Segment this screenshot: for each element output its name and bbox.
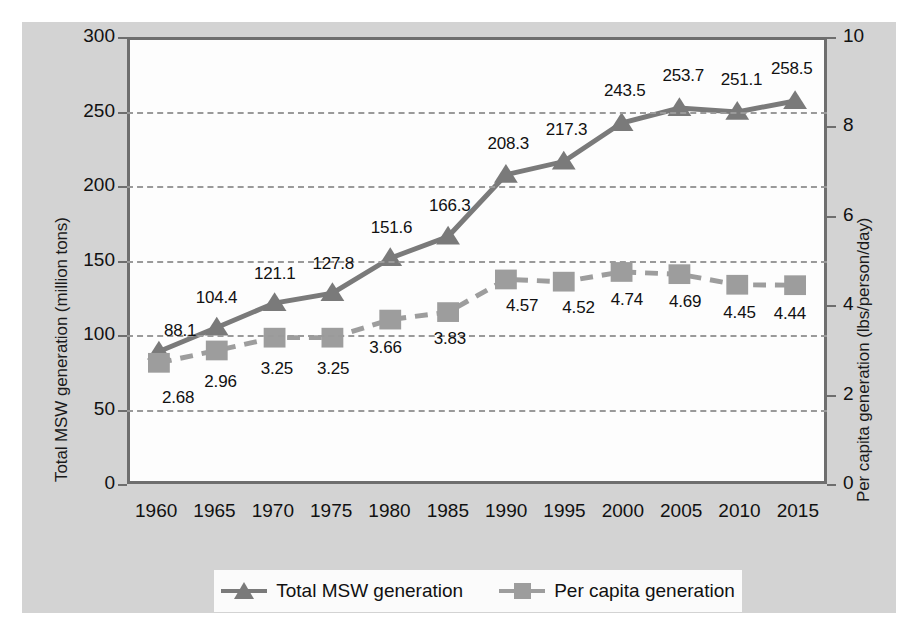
per-capita-value-label: 3.83	[434, 329, 466, 349]
square-marker-icon	[499, 580, 545, 602]
left-tick-label: 200	[55, 174, 115, 196]
data-point-marker	[264, 328, 286, 348]
left-tick-mark	[118, 484, 127, 486]
right-tick-mark	[827, 484, 836, 486]
left-tick-mark	[118, 37, 127, 39]
total-value-label: 258.5	[771, 59, 813, 79]
right-tick-label: 6	[843, 204, 903, 226]
right-tick-label: 10	[843, 25, 903, 47]
total-value-label: 208.3	[487, 134, 529, 154]
total-value-label: 104.4	[196, 288, 238, 308]
legend-entry-per-capita: Per capita generation	[499, 580, 735, 602]
data-point-marker	[495, 270, 517, 290]
data-point-marker	[148, 353, 170, 373]
right-tick-mark	[827, 37, 836, 39]
data-point-marker	[437, 302, 459, 322]
data-point-marker	[784, 275, 806, 295]
total-value-label: 243.5	[604, 81, 646, 101]
right-tick-label: 4	[843, 293, 903, 315]
total-value-label: 127.8	[312, 254, 354, 274]
total-value-label: 151.6	[371, 218, 413, 238]
per-capita-value-label: 4.44	[774, 304, 806, 324]
legend-label-total: Total MSW generation	[276, 580, 463, 602]
per-capita-value-label: 3.25	[261, 359, 293, 379]
data-point-marker	[611, 262, 633, 282]
x-tick-label: 2015	[763, 500, 833, 522]
gridline	[127, 112, 827, 114]
per-capita-value-label: 4.45	[723, 303, 755, 323]
right-tick-mark	[827, 395, 836, 397]
gridline	[127, 186, 827, 188]
chart-figure: Total MSW generation (million tons) Per …	[22, 22, 896, 613]
total-value-label: 166.3	[429, 196, 471, 216]
total-value-label: 88.1	[164, 321, 196, 341]
per-capita-value-label: 4.74	[611, 290, 643, 310]
right-tick-mark	[827, 216, 836, 218]
per-capita-value-label: 4.52	[562, 298, 594, 318]
left-tick-mark	[118, 261, 127, 263]
left-tick-mark	[118, 112, 127, 114]
total-value-label: 253.7	[662, 66, 704, 86]
left-tick-label: 0	[55, 472, 115, 494]
per-capita-value-label: 2.96	[204, 372, 236, 392]
gridline	[127, 410, 827, 412]
data-point-marker	[321, 282, 345, 301]
series-line-square	[159, 272, 795, 363]
gridline	[127, 335, 827, 337]
per-capita-value-label: 3.66	[369, 338, 401, 358]
right-tick-mark	[827, 126, 836, 128]
left-tick-mark	[118, 186, 127, 188]
total-value-label: 217.3	[546, 120, 588, 140]
chart-legend: Total MSW generation Per capita generati…	[214, 570, 742, 612]
right-tick-label: 0	[843, 472, 903, 494]
left-tick-label: 300	[55, 25, 115, 47]
per-capita-value-label: 2.68	[162, 388, 194, 408]
right-axis-title: Per capita generation (lbs/person/day)	[854, 218, 874, 502]
legend-label-per-capita: Per capita generation	[554, 580, 735, 602]
per-capita-value-label: 4.69	[669, 292, 701, 312]
data-point-marker	[669, 264, 691, 284]
left-tick-label: 250	[55, 100, 115, 122]
per-capita-value-label: 4.57	[506, 296, 538, 316]
left-tick-label: 150	[55, 249, 115, 271]
series-line-triangle	[159, 101, 795, 351]
left-tick-mark	[118, 410, 127, 412]
gridline	[127, 261, 827, 263]
right-tick-mark	[827, 305, 836, 307]
data-point-marker	[783, 90, 807, 109]
per-capita-value-label: 3.25	[317, 359, 349, 379]
data-point-marker	[553, 272, 575, 292]
total-value-label: 121.1	[254, 264, 296, 284]
right-tick-label: 2	[843, 383, 903, 405]
data-point-marker	[726, 275, 748, 295]
legend-entry-total: Total MSW generation	[221, 580, 463, 602]
triangle-marker-icon	[221, 580, 267, 602]
left-tick-label: 100	[55, 323, 115, 345]
left-tick-mark	[118, 335, 127, 337]
total-value-label: 251.1	[721, 70, 763, 90]
data-point-marker	[379, 310, 401, 330]
left-tick-label: 50	[55, 398, 115, 420]
data-point-marker	[322, 328, 344, 348]
data-point-marker	[206, 341, 228, 361]
right-tick-label: 8	[843, 114, 903, 136]
